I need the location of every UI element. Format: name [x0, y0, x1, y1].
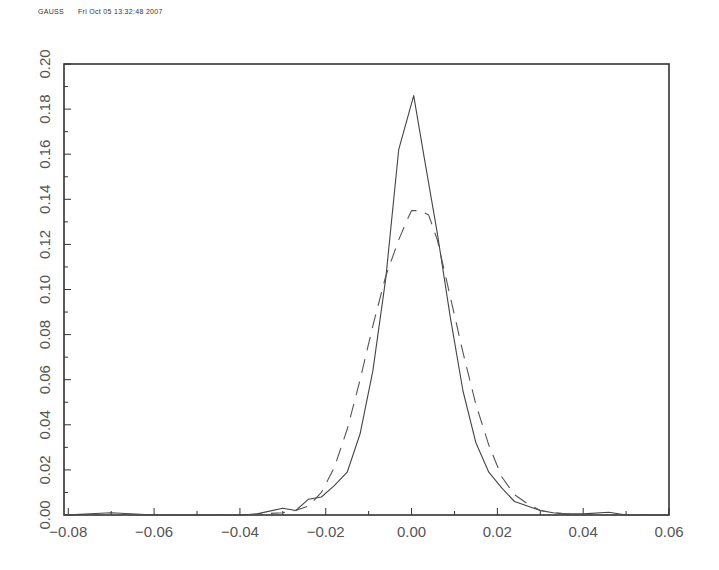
y-tick-label: 0.20 [36, 49, 53, 78]
y-tick-label: 0.14 [36, 185, 53, 214]
x-tick-label: −0.06 [135, 523, 173, 540]
x-tick-label: −0.04 [221, 523, 259, 540]
x-tick-label: −0.02 [307, 523, 345, 540]
y-tick-label: 0.08 [36, 320, 53, 349]
x-tick-label: 0.06 [654, 523, 683, 540]
x-tick-label: 0.00 [397, 523, 426, 540]
y-tick-label: 0.10 [36, 275, 53, 304]
y-tick-label: 0.16 [36, 140, 53, 169]
y-tick-label: 0.06 [36, 365, 53, 394]
x-axis: −0.08−0.06−0.04−0.020.000.020.040.06 [49, 508, 683, 540]
x-tick-label: 0.04 [569, 523, 598, 540]
x-tick-label: 0.02 [483, 523, 512, 540]
y-axis: 0.000.020.040.060.080.100.120.140.160.18… [36, 49, 71, 529]
x-tick-label: −0.08 [49, 523, 87, 540]
y-tick-label: 0.02 [36, 455, 53, 484]
plot-frame [64, 64, 669, 515]
series-group [64, 96, 669, 515]
y-tick-label: 0.12 [36, 230, 53, 259]
normal-density-line [64, 211, 669, 515]
y-tick-label: 0.04 [36, 410, 53, 439]
empirical-density-line [64, 96, 669, 515]
y-tick-label: 0.18 [36, 94, 53, 123]
density-chart: 0.000.020.040.060.080.100.120.140.160.18… [0, 0, 719, 570]
